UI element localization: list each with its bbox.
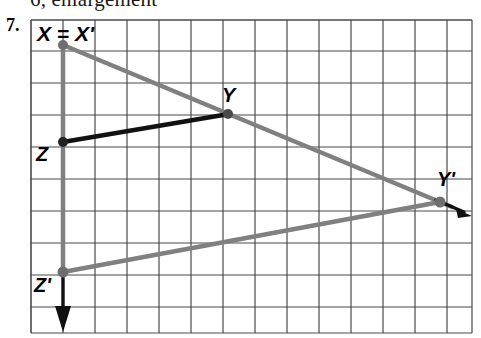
grid-lines bbox=[31, 20, 472, 333]
segment-z-to-y bbox=[63, 114, 229, 142]
vertex-dot-z bbox=[58, 137, 68, 147]
point-label-y-prime: Y' bbox=[437, 168, 455, 191]
arrow-through-zprime-icon bbox=[55, 270, 71, 332]
vertex-dot-zprime bbox=[58, 267, 69, 278]
figure-canvas: 6, enlargement 7. bbox=[0, 0, 481, 338]
point-label-y: Y bbox=[222, 84, 235, 107]
point-label-z-prime: Z' bbox=[34, 274, 51, 297]
point-label-x: X = X' bbox=[37, 22, 94, 46]
vertex-dot-y bbox=[223, 109, 233, 119]
segment-x-to-yprime bbox=[63, 45, 452, 207]
point-label-z: Z bbox=[36, 143, 48, 166]
vertex-dot-yprime bbox=[435, 197, 446, 208]
geometry-diagram bbox=[0, 0, 481, 338]
